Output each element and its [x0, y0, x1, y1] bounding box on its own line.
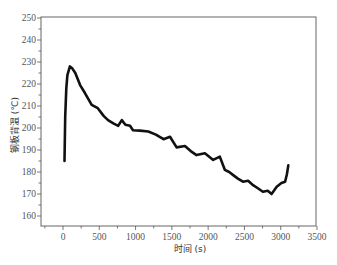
y-tick-label: 250: [22, 13, 37, 23]
line-chart: 0500100015002000250030003500 16017018019…: [0, 0, 337, 265]
y-tick-label: 170: [22, 189, 37, 199]
y-axis-title: 钢板背温 (℃): [9, 97, 20, 153]
plot-border: [41, 17, 316, 226]
y-tick-label: 240: [22, 35, 37, 45]
temperature-series-line: [65, 66, 289, 194]
y-axis-tick-labels: 160170180190200210220230240250: [22, 13, 37, 221]
axis-ticks: [37, 18, 317, 230]
x-tick-label: 1000: [126, 232, 145, 242]
x-tick-label: 500: [92, 232, 107, 242]
x-axis-title: 时间 (s): [174, 243, 207, 254]
x-tick-label: 2500: [235, 232, 254, 242]
y-tick-label: 160: [22, 211, 37, 221]
x-tick-label: 3000: [271, 232, 290, 242]
y-tick-label: 220: [22, 79, 37, 89]
plot-frame: [41, 17, 316, 226]
x-tick-label: 1500: [162, 232, 181, 242]
y-tick-label: 190: [22, 145, 37, 155]
x-tick-label: 0: [61, 232, 66, 242]
y-tick-label: 180: [22, 167, 37, 177]
y-tick-label: 230: [22, 57, 37, 67]
y-tick-label: 200: [22, 123, 37, 133]
y-tick-label: 210: [22, 101, 37, 111]
x-tick-label: 3500: [308, 232, 327, 242]
x-axis-tick-labels: 0500100015002000250030003500: [61, 232, 327, 242]
x-tick-label: 2000: [199, 232, 218, 242]
